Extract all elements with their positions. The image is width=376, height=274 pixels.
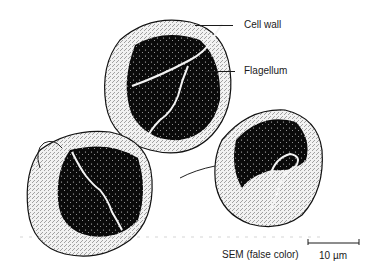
cell-wall-leader [195,25,233,26]
cell-top [105,20,231,153]
cells-illustration [0,0,376,274]
caption-label: SEM (false color) [222,249,299,260]
cell-bottom-left [27,131,152,256]
flagellum-label: Flagellum [244,65,287,76]
sem-figure: Cell wall Flagellum SEM (false color) 10… [0,0,376,274]
scale-bar-label: 10 µm [319,250,347,261]
scale-bar [308,239,359,245]
flagellum-leader [205,71,235,72]
cell-wall-label: Cell wall [244,19,281,30]
